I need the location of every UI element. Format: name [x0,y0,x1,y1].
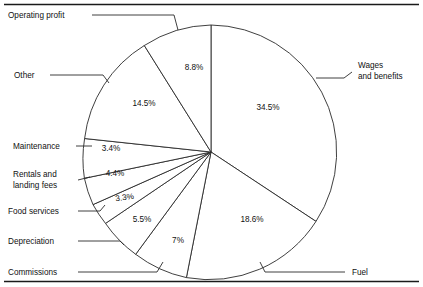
pie-value-label-depreciation: 5.5% [133,215,152,224]
callout-label-fuel: Fuel [352,268,368,277]
pie-chart-figure: 34.5% 18.6% 7% 5.5% 3.3% 4.4% 3.4% 14.5%… [0,0,423,287]
leader-line-fuel [260,262,345,272]
leader-line-operating-profit [92,15,178,30]
leader-line-wages-and-benefits [316,72,352,78]
callout-label-rentals-and-landing-fees-line1: Rentals and [13,170,57,179]
leader-line-other [50,75,109,83]
leader-line-depreciation [78,241,124,245]
callout-label-commissions: Commissions [8,268,57,277]
pie-chart-svg: 34.5% 18.6% 7% 5.5% 3.3% 4.4% 3.4% 14.5%… [0,0,423,287]
pie-value-label-rentals-and-landing-fees: 4.4% [106,169,125,178]
pie-value-label-commissions: 7% [172,236,184,245]
callout-label-other: Other [14,71,35,80]
callout-label-maintenance: Maintenance [13,142,60,151]
callout-label-wages-and-benefits-line2: and benefits [358,72,403,81]
callout-label-operating-profit: Operating profit [8,11,65,20]
pie-value-label-operating-profit: 8.8% [185,63,204,72]
callout-label-wages-and-benefits-line1: Wages [358,61,383,70]
pie-value-label-other: 14.5% [132,99,155,108]
callout-label-depreciation: Depreciation [8,237,54,246]
pie-value-label-wages-and-benefits: 34.5% [256,103,279,112]
callout-label-rentals-and-landing-fees-line2: landing fees [13,181,57,190]
pie-value-label-fuel: 18.6% [240,215,263,224]
callout-label-food-services: Food services [8,207,59,216]
pie-value-label-maintenance: 3.4% [102,144,121,153]
